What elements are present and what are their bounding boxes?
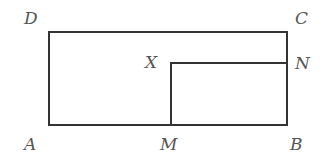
label-a: A (22, 134, 36, 154)
inner-rectangle-mbnx (171, 63, 287, 125)
label-d: D (23, 8, 38, 28)
geometry-diagram: D C X N A M B (0, 0, 330, 163)
label-n: N (294, 53, 311, 73)
label-m: M (159, 134, 178, 154)
label-x: X (143, 52, 158, 72)
outer-rectangle-abcd (49, 32, 287, 125)
label-c: C (295, 8, 308, 28)
label-b: B (289, 134, 303, 154)
